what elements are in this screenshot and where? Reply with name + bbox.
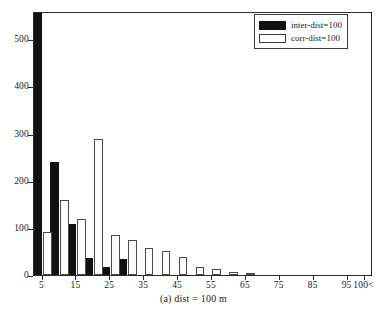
legend-swatch-inter-dist-icon [259, 21, 286, 30]
bar-corr-65 [246, 273, 255, 275]
figure: 0100200300400500 5152535455565758595100<… [0, 0, 387, 316]
legend: inter-dist=100 corr-dist=100 [254, 14, 348, 49]
y-tick-label-400: 400 [14, 82, 29, 92]
x-tick-label-85: 85 [308, 280, 318, 290]
y-tick-label-100: 100 [14, 224, 29, 234]
y-axis: 0100200300400500 [0, 0, 33, 316]
legend-item-corr-dist: corr-dist=100 [259, 32, 342, 44]
bar-corr-25 [111, 235, 120, 275]
bar-corr-50 [196, 267, 205, 275]
y-tick-label-200: 200 [14, 177, 29, 187]
x-tick-label-65: 65 [240, 280, 250, 290]
x-tick-label-100<: 100< [353, 280, 373, 290]
bar-corr-10 [60, 200, 69, 275]
bar-corr-40 [162, 251, 171, 275]
bar-corr-20 [94, 139, 103, 275]
bar-corr-30 [128, 240, 137, 275]
x-tick-label-45: 45 [172, 280, 182, 290]
y-tick-label-500: 500 [14, 35, 29, 45]
x-tick-label-5: 5 [39, 280, 44, 290]
bar-corr-60 [229, 272, 238, 275]
x-tick-label-55: 55 [206, 280, 216, 290]
x-tick-label-15: 15 [70, 280, 80, 290]
bars-layer [34, 13, 371, 275]
bar-corr-15 [77, 219, 86, 275]
bar-inter-5 [33, 12, 42, 275]
x-tick-label-25: 25 [104, 280, 114, 290]
bar-corr-35 [145, 248, 154, 275]
x-tick-label-95: 95 [342, 280, 352, 290]
x-tick-label-75: 75 [274, 280, 284, 290]
bar-corr-45 [179, 257, 188, 275]
y-tick-label-300: 300 [14, 130, 29, 140]
bar-corr-5 [43, 232, 52, 275]
x-tick-label-35: 35 [138, 280, 148, 290]
legend-swatch-corr-dist-icon [259, 34, 286, 43]
figure-caption: (a) dist = 100 m [0, 293, 387, 305]
bar-corr-55 [212, 269, 221, 275]
plot-area [33, 12, 372, 276]
legend-label-inter-dist: inter-dist=100 [291, 21, 342, 30]
legend-item-inter-dist: inter-dist=100 [259, 19, 342, 31]
legend-label-corr-dist: corr-dist=100 [291, 34, 340, 43]
